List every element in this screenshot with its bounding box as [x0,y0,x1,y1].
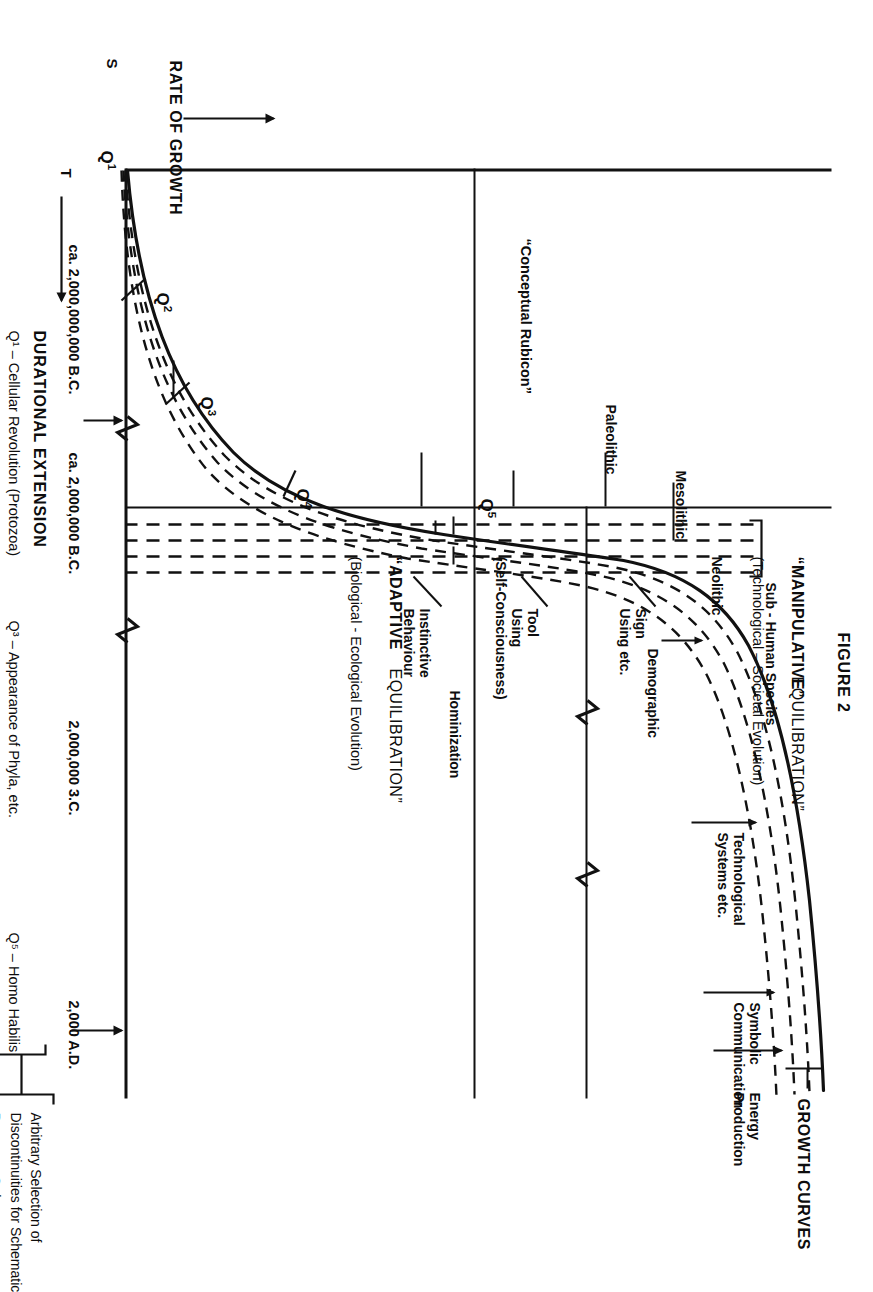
x-axis-title: DURATIONAL EXTENSION [29,330,47,547]
y-axis-arrow-letter: S [102,58,119,68]
region-lower-band-label: Hominization [445,690,461,778]
growth-curves-heading: GROWTH CURVES [793,1098,811,1250]
region-upper-subtitle: (Technological – Societal Evolution) [749,556,765,785]
label-neolithic: Neolithic [707,556,723,615]
behaviour-leader-lines [413,576,655,606]
marker-q4: Q4 [292,488,313,508]
label-symbolic-communication: Symbolic Communication [730,1002,761,1108]
label-instinctive-behaviour: Instinctive Behaviour [400,608,431,677]
region-lower-equilibration: EQUILIBRATION” [385,668,403,803]
y-axis-title: RATE OF GROWTH [165,60,183,215]
label-tool-using: Tool Using [508,608,539,647]
region-lower-name: “ADAPTIVE [385,556,403,649]
label-paleolithic: Paleolithic [601,404,617,474]
marker-q2: Q2 [152,292,173,312]
time-marker-2: ca. 2,000,000 B.C. [65,452,81,574]
legend-brackets [0,1044,53,1104]
time-marker-1: ca. 2,000,000,000 B.C. [65,244,81,394]
legend-note: Arbitrary Selection of Discontinuities f… [0,1112,45,1292]
legend-col2-line1: Q³ – Appearance of Phyla, etc. [5,620,21,817]
curve-symbolic-communication [123,170,794,1094]
label-sign-using: Sign Using etc. [616,608,647,675]
region-upper-band-label: (Self-Consciousness) [491,556,507,699]
region-lower-subtitle: (Biological - Ecological Evolution) [347,556,363,770]
species-band-rails [125,524,753,572]
time-marker-3: 2,000,000 3.C. [65,720,81,815]
label-technological-systems: Technological Systems etc. [714,832,745,925]
period-leader-lines [421,452,673,540]
time-marker-4: 2,000 A.D. [65,1000,81,1069]
x-axis-arrow-letter: T [56,168,73,177]
legend-col3-line1: Q⁵ – Homo Habilis [5,932,21,1052]
curve-demographic [127,170,823,1090]
figure-number: FIGURE 2 [833,632,851,712]
legend-col1-line1: Q¹ – Cellular Revolution (Protozoa) [5,330,21,556]
label-conceptual-rubicon: “Conceptual Rubicon” [517,238,533,393]
curve-energy-production [121,170,776,1096]
marker-q1: Q1 [96,150,117,170]
curve-technological-systems [125,170,809,1092]
region-upper-equilibration: EQUILIBRATION” [787,676,805,811]
marker-q5: Q5 [476,498,497,518]
marker-q3: Q3 [196,396,217,416]
label-mesolithic: Mesolithic [671,470,687,538]
